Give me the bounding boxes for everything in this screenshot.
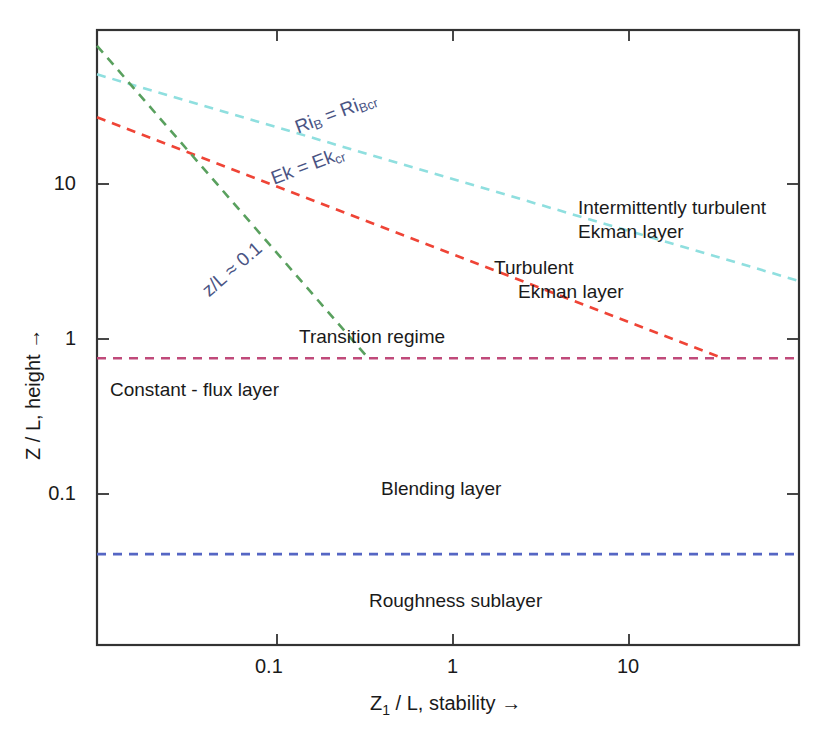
region-label-roughness-sublayer: Roughness sublayer xyxy=(369,589,542,613)
region-label-intermittently-turbulent: Intermittently turbulentEkman layer xyxy=(578,196,766,244)
turbulent-line2: Ekman layer xyxy=(494,281,624,302)
intermittent-line1: Intermittently turbulent xyxy=(578,197,766,218)
region-label-turbulent-ekman: TurbulentEkman layer xyxy=(494,256,624,304)
plot-canvas xyxy=(0,0,829,734)
region-label-transition-regime: Transition regime xyxy=(299,325,445,349)
y-tick-label-10: 10 xyxy=(28,172,76,195)
turbulent-line1: Turbulent xyxy=(494,257,574,278)
y-axis-title: Z / L, height → xyxy=(22,329,45,460)
region-label-blending-layer: Blending layer xyxy=(381,477,501,501)
intermittent-line2: Ekman layer xyxy=(578,221,684,242)
x-tick-label-0.1: 0.1 xyxy=(255,655,283,678)
plot-frame xyxy=(97,30,799,645)
x-axis-title: Z1 / L, stability → xyxy=(370,692,521,718)
x-axis-title-text: Z1 / L, stability → xyxy=(370,692,521,714)
y-tick-label-0.1: 0.1 xyxy=(18,482,76,505)
region-label-constant-flux-layer: Constant - flux layer xyxy=(110,378,279,402)
figure-container: 10 1 0.1 0.1 1 10 Z / L, height → Z1 / L… xyxy=(0,0,829,734)
x-tick-label-10: 10 xyxy=(617,655,639,678)
curve-ri-b-ri-bcr xyxy=(97,74,799,281)
curve-z-l-0-1 xyxy=(97,46,368,358)
x-tick-label-1: 1 xyxy=(447,655,458,678)
y-axis-title-text: Z / L, height → xyxy=(22,329,44,460)
